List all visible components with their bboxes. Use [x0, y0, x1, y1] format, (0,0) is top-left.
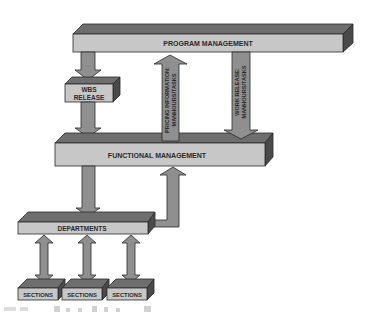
work-release-label-line2: MANHOURS/TASKS	[241, 65, 247, 118]
figure-caption-faded	[4, 304, 204, 316]
arrow-wbs-to-functional	[75, 102, 101, 137]
program-management-block: PROGRAM MANAGEMENT	[73, 24, 353, 52]
pricing-label-line1: PRICING INFORMATION:	[164, 67, 170, 133]
sections-block-3: SECTIONS	[107, 279, 154, 300]
wbs-release-block: WBS RELEASE	[65, 77, 120, 102]
departments-label: DEPARTMENTS	[58, 225, 108, 232]
work-release-label-line1: WORK RELEASE:	[234, 68, 240, 116]
sections-block-2: SECTIONS	[62, 279, 109, 300]
arrow-departments-sections-1	[35, 235, 53, 283]
arrow-departments-to-functional	[152, 167, 186, 227]
sections-label-3: SECTIONS	[112, 292, 142, 298]
arrow-departments-sections-3	[122, 235, 140, 283]
functional-management-label: FUNCTIONAL MANAGEMENT	[108, 152, 207, 159]
arrow-program-to-wbs	[75, 52, 101, 80]
wbs-release-label-line2: RELEASE	[74, 94, 105, 101]
program-management-label: PROGRAM MANAGEMENT	[163, 40, 253, 47]
arrow-departments-sections-2	[78, 235, 96, 283]
caption-glyph-fragments	[4, 304, 154, 314]
arrow-pricing-information: PRICING INFORMATION: MANHOURS/TASKS	[154, 55, 187, 141]
pricing-label-line2: MANHOURS/TASKS	[171, 73, 177, 126]
sections-label-2: SECTIONS	[67, 292, 97, 298]
departments-block: DEPARTMENTS	[18, 212, 155, 234]
sections-label-1: SECTIONS	[23, 292, 53, 298]
wbs-release-label-line1: WBS	[81, 86, 97, 93]
arrow-work-release: WORK RELEASE: MANHOURS/TASKS	[224, 52, 258, 139]
sections-block-1: SECTIONS	[18, 279, 65, 300]
organization-diagram: PROGRAM MANAGEMENT WBS RELEASE FUNCTIONA…	[0, 0, 368, 317]
arrow-functional-to-departments	[76, 166, 100, 216]
